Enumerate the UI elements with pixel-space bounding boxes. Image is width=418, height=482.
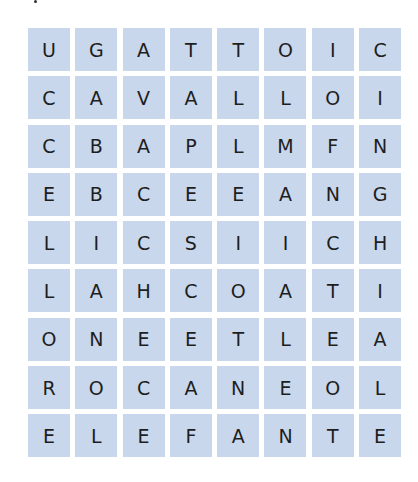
grid-cell-r1-c8[interactable]: C (359, 28, 401, 71)
grid-cell-r2-c3[interactable]: V (123, 76, 165, 119)
grid-cell-r7-c7[interactable]: E (312, 318, 354, 361)
grid-cell-r7-c4[interactable]: E (170, 318, 212, 361)
grid-cell-r3-c1[interactable]: C (28, 125, 70, 168)
grid-cell-r6-c2[interactable]: A (75, 269, 117, 312)
grid-cell-r6-c4[interactable]: C (170, 269, 212, 312)
grid-cell-r4-c8[interactable]: G (359, 173, 401, 216)
grid-cell-r5-c8[interactable]: H (359, 221, 401, 264)
grid-cell-r8-c7[interactable]: O (312, 366, 354, 409)
grid-cell-r5-c2[interactable]: I (75, 221, 117, 264)
grid-cell-r3-c3[interactable]: A (123, 125, 165, 168)
grid-cell-r7-c6[interactable]: L (264, 318, 306, 361)
grid-cell-r9-c1[interactable]: E (28, 414, 70, 457)
grid-cell-r8-c3[interactable]: C (123, 366, 165, 409)
grid-cell-r3-c7[interactable]: F (312, 125, 354, 168)
grid-cell-r3-c2[interactable]: B (75, 125, 117, 168)
grid-cell-r7-c2[interactable]: N (75, 318, 117, 361)
grid-cell-r9-c8[interactable]: E (359, 414, 401, 457)
grid-cell-r6-c6[interactable]: A (264, 269, 306, 312)
grid-cell-r4-c2[interactable]: B (75, 173, 117, 216)
grid-cell-r8-c5[interactable]: N (217, 366, 259, 409)
grid-cell-r4-c4[interactable]: E (170, 173, 212, 216)
word-search-grid: UGATTOICCAVALLOICBAPLMFNEBCEEANGLICSIICH… (28, 28, 401, 457)
grid-cell-r7-c5[interactable]: T (217, 318, 259, 361)
grid-cell-r4-c6[interactable]: A (264, 173, 306, 216)
grid-cell-r1-c1[interactable]: U (28, 28, 70, 71)
grid-cell-r3-c4[interactable]: P (170, 125, 212, 168)
grid-cell-r5-c6[interactable]: I (264, 221, 306, 264)
grid-cell-r8-c2[interactable]: O (75, 366, 117, 409)
grid-cell-r9-c2[interactable]: L (75, 414, 117, 457)
cropped-punctuation-mark (34, 0, 37, 3)
grid-cell-r2-c5[interactable]: L (217, 76, 259, 119)
grid-cell-r5-c7[interactable]: C (312, 221, 354, 264)
grid-cell-r5-c1[interactable]: L (28, 221, 70, 264)
grid-cell-r9-c7[interactable]: T (312, 414, 354, 457)
grid-cell-r5-c5[interactable]: I (217, 221, 259, 264)
grid-cell-r3-c6[interactable]: M (264, 125, 306, 168)
grid-cell-r9-c3[interactable]: E (123, 414, 165, 457)
grid-cell-r2-c8[interactable]: I (359, 76, 401, 119)
grid-cell-r4-c5[interactable]: E (217, 173, 259, 216)
grid-cell-r8-c4[interactable]: A (170, 366, 212, 409)
grid-cell-r7-c8[interactable]: A (359, 318, 401, 361)
grid-cell-r8-c8[interactable]: L (359, 366, 401, 409)
grid-cell-r1-c2[interactable]: G (75, 28, 117, 71)
grid-cell-r8-c6[interactable]: E (264, 366, 306, 409)
grid-cell-r5-c4[interactable]: S (170, 221, 212, 264)
grid-cell-r4-c3[interactable]: C (123, 173, 165, 216)
grid-cell-r6-c5[interactable]: O (217, 269, 259, 312)
grid-cell-r9-c6[interactable]: N (264, 414, 306, 457)
grid-cell-r6-c3[interactable]: H (123, 269, 165, 312)
grid-cell-r4-c1[interactable]: E (28, 173, 70, 216)
grid-cell-r2-c4[interactable]: A (170, 76, 212, 119)
grid-cell-r4-c7[interactable]: N (312, 173, 354, 216)
grid-cell-r6-c7[interactable]: T (312, 269, 354, 312)
grid-cell-r2-c1[interactable]: C (28, 76, 70, 119)
grid-cell-r3-c5[interactable]: L (217, 125, 259, 168)
grid-cell-r6-c8[interactable]: I (359, 269, 401, 312)
grid-cell-r7-c1[interactable]: O (28, 318, 70, 361)
grid-cell-r2-c2[interactable]: A (75, 76, 117, 119)
grid-cell-r6-c1[interactable]: L (28, 269, 70, 312)
grid-cell-r2-c7[interactable]: O (312, 76, 354, 119)
grid-cell-r9-c5[interactable]: A (217, 414, 259, 457)
grid-cell-r1-c7[interactable]: I (312, 28, 354, 71)
grid-cell-r5-c3[interactable]: C (123, 221, 165, 264)
grid-cell-r7-c3[interactable]: E (123, 318, 165, 361)
grid-cell-r8-c1[interactable]: R (28, 366, 70, 409)
grid-cell-r3-c8[interactable]: N (359, 125, 401, 168)
grid-cell-r1-c6[interactable]: O (264, 28, 306, 71)
grid-cell-r1-c3[interactable]: A (123, 28, 165, 71)
grid-cell-r2-c6[interactable]: L (264, 76, 306, 119)
grid-cell-r1-c5[interactable]: T (217, 28, 259, 71)
grid-cell-r9-c4[interactable]: F (170, 414, 212, 457)
grid-cell-r1-c4[interactable]: T (170, 28, 212, 71)
